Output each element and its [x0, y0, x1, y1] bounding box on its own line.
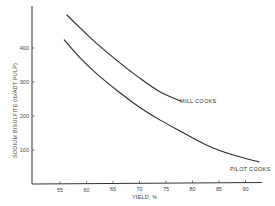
- x-tick-label: 70: [136, 186, 142, 192]
- series-label-mill-cooks: MILL COOKS: [180, 98, 216, 104]
- axes: [32, 6, 262, 184]
- x-tick-label: 60: [83, 187, 89, 193]
- x-tick-label: 80: [189, 186, 195, 192]
- x-tick-label: 90: [242, 186, 248, 192]
- tick-marks: 5560657075808590100200300400: [20, 45, 249, 193]
- x-tick-label: 75: [163, 186, 169, 192]
- x-tick-label: 65: [110, 186, 116, 192]
- y-tick-label: 300: [20, 79, 29, 85]
- x-tick-label: 55: [57, 187, 63, 193]
- series-line-pilot-cooks: [64, 40, 259, 162]
- y-tick-label: 200: [20, 113, 29, 119]
- x-tick-label: 85: [216, 186, 222, 192]
- y-axis-title: SODIUM BISULFITE (lb/ADT PULP): [12, 63, 18, 158]
- y-tick-label: 400: [20, 45, 29, 51]
- series-lines: [64, 15, 259, 162]
- x-axis-title: YIELD, %: [132, 194, 157, 200]
- chart: 5560657075808590100200300400 MILL COOKS …: [0, 0, 275, 206]
- series-line-mill-cooks: [67, 15, 181, 101]
- x-axis-line: [32, 183, 262, 185]
- y-tick-label: 100: [20, 147, 29, 153]
- series-label-pilot-cooks: PILOT COOKS: [230, 166, 271, 172]
